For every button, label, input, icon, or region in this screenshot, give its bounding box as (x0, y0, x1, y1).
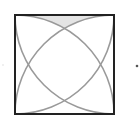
geometry-diagram (0, 0, 139, 124)
arc-center-bottom-left (15, 15, 114, 114)
square-outline (15, 15, 114, 114)
arc-center-bottom-right (15, 15, 114, 114)
arc-center-top-right (15, 15, 114, 114)
right-dot-icon (136, 65, 139, 68)
arc-center-top-left (15, 15, 114, 114)
shaded-region (15, 15, 114, 28)
left-faint-mark-icon (2, 64, 4, 66)
